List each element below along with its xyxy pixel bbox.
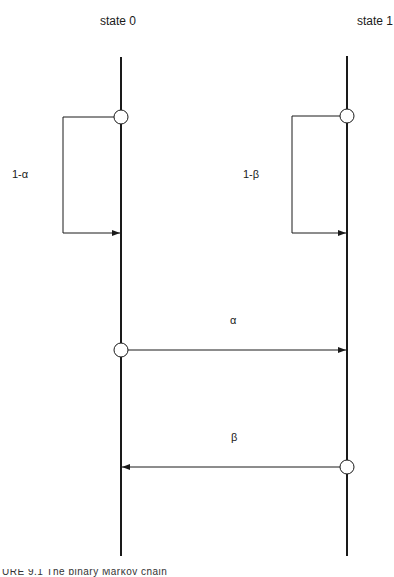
self-loop-state1 (292, 116, 346, 233)
beta-origin-node (340, 460, 354, 474)
alpha-transition-label: α (230, 314, 236, 326)
state1-label: state 1 (357, 14, 393, 28)
beta-transition-label: β (231, 431, 237, 443)
self-loop-state1-label: 1-β (243, 168, 259, 180)
self-loop-state0-label: 1-α (12, 168, 28, 180)
alpha-origin-node (114, 343, 128, 357)
state0-label: state 0 (100, 14, 136, 28)
state1-loop-origin-node (340, 109, 354, 123)
self-loop-state0 (63, 117, 120, 233)
state0-loop-origin-node (114, 110, 128, 124)
